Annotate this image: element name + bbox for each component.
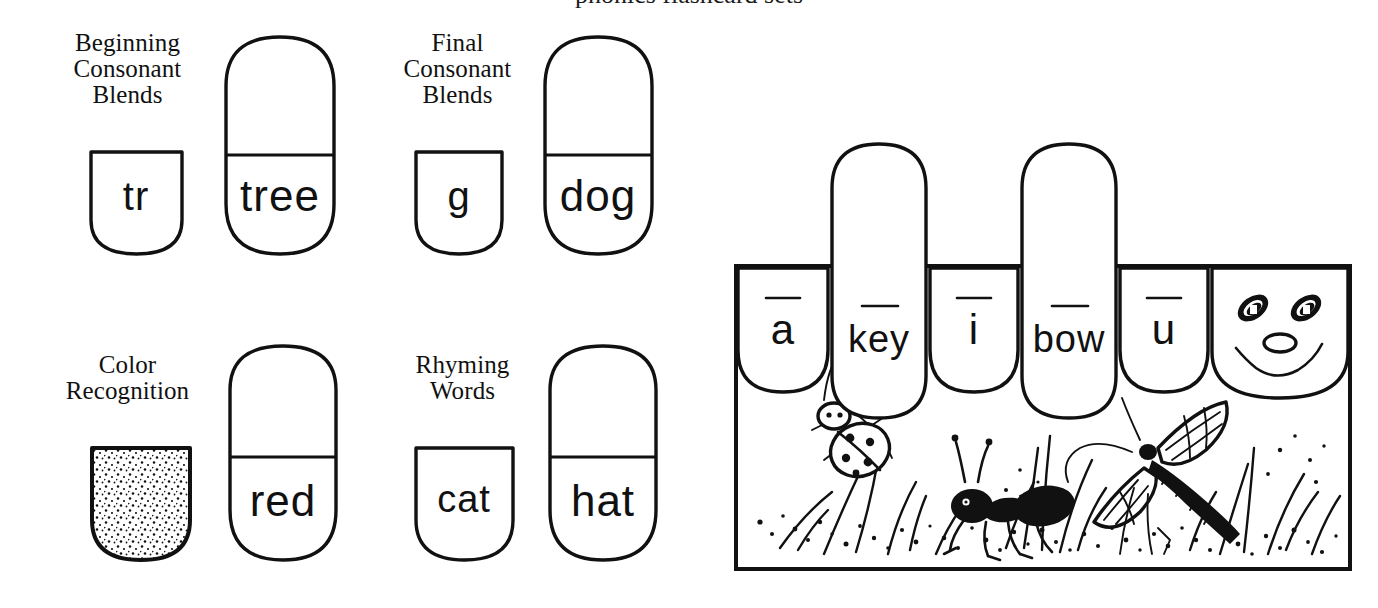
card-word-bow[interactable]: bow (1022, 144, 1116, 418)
cropped-header: phonics flashcard sets (0, 0, 1378, 10)
worksheet-page: phonics flashcard sets Beginning Consona… (0, 0, 1378, 608)
card-pair-color: red (80, 340, 350, 590)
card-vowel-i[interactable]: i (930, 268, 1018, 392)
card-shield-cat[interactable]: cat (416, 448, 513, 560)
card-smiley-face[interactable] (1212, 268, 1348, 398)
card-pill-red[interactable]: red (230, 346, 336, 560)
cropped-header-text: phonics flashcard sets (0, 0, 1378, 10)
card-shield-cat-text: cat (437, 478, 491, 520)
card-shield-tr[interactable]: tr (91, 152, 182, 254)
card-pill-hat-text: hat (571, 476, 635, 525)
card-vowel-u[interactable]: u (1120, 268, 1208, 392)
card-shield-g-text: g (447, 174, 470, 218)
card-pair-beginning: tr tree (80, 28, 350, 263)
card-pill-hat[interactable]: hat (550, 346, 656, 560)
card-pill-tree-text: tree (240, 171, 320, 220)
card-vowel-a[interactable]: a (738, 268, 828, 392)
card-vowel-u-text: u (1152, 306, 1176, 353)
card-pair-final: g dog (405, 28, 675, 263)
smiley-nose (1264, 334, 1296, 352)
card-pill-tree[interactable]: tree (226, 37, 334, 254)
card-vowel-a-text: a (771, 306, 795, 353)
card-shield-color-swatch[interactable] (92, 448, 190, 560)
card-pill-red-text: red (250, 476, 317, 525)
card-shield-tr-text: tr (123, 174, 149, 218)
card-word-key[interactable]: key (832, 144, 926, 418)
card-word-key-text: key (848, 318, 910, 360)
long-vowel-scene: a key i bow (720, 130, 1370, 590)
card-pair-rhyming: cat hat (405, 340, 675, 590)
card-word-bow-text: bow (1033, 318, 1106, 360)
card-pill-dog-text: dog (560, 171, 636, 220)
card-pill-dog[interactable]: dog (545, 37, 652, 254)
card-shield-g[interactable]: g (416, 152, 502, 254)
card-vowel-i-text: i (969, 306, 979, 353)
